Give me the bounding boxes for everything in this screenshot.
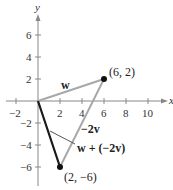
x-axis-label: x [168,94,173,106]
x-axis-arrow-icon [161,99,168,104]
y-axis-label: y [34,1,40,13]
x-tick-label: 2 [57,107,63,119]
vector-label-sum: w + (−2v) [77,141,125,155]
x-tick-label: 8 [123,107,129,119]
x-tick-label: 10 [142,107,154,119]
vector-label-neg-2v: −2v [81,122,100,136]
point-label-2-neg6: (2, −6) [64,170,97,184]
point-label-6-2: (6, 2) [109,65,135,79]
y-tick-label: 6 [26,29,32,41]
y-tick-label: 2 [26,73,32,85]
x-tick-label: −2 [9,107,21,119]
x-tick-label: 6 [101,107,107,119]
point-2-neg6 [57,164,63,170]
vector-label-w: w [61,78,70,92]
y-tick-label: −4 [20,139,32,151]
point-6-2 [101,76,107,82]
y-tick-label: −6 [20,161,32,173]
sum-label-leader [50,131,75,144]
y-axis-arrow-icon [36,14,41,21]
vector-diagram: −2 2 4 6 8 10 2 4 6 −2 −4 −6 y x (6, 2) … [0,0,173,190]
y-tick-label: −2 [20,117,32,129]
x-axis [6,99,168,104]
y-tick-label: 4 [26,51,32,63]
